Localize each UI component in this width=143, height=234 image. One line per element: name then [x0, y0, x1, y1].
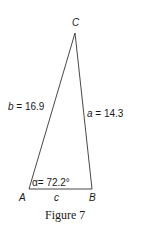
vertex-label-b: B	[89, 192, 96, 203]
vertex-label-c: C	[72, 17, 80, 28]
side-label-b: b = 16.9	[8, 101, 45, 112]
figure-caption: Figure 7	[45, 208, 85, 222]
vertex-label-a: A	[18, 192, 26, 203]
side-label-a: a = 14.3	[87, 108, 124, 119]
side-b-value: = 16.9	[14, 101, 45, 112]
side-a-value: = 14.3	[93, 108, 124, 119]
triangle-diagram: C A B b = 16.9 a = 14.3 c α= 72.2° Figur…	[0, 0, 143, 234]
angle-alpha-label: α= 72.2°	[32, 177, 70, 188]
side-label-c: c	[54, 192, 59, 203]
